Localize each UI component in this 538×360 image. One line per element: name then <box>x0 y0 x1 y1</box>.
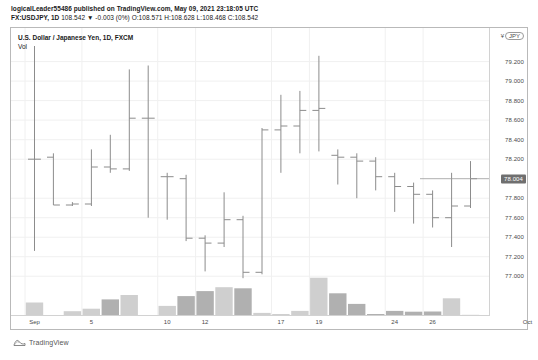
tradingview-brand: TradingView <box>13 338 69 347</box>
quote-ohlc-values: O:108.571 H:108.628 L:108.468 C:108.542 <box>132 14 259 21</box>
legend-volume-label: Vol <box>18 42 133 51</box>
attribution-quote-line: FX:USDJPY, 1D 108.542 ▼ -0.003 (0%) O:10… <box>11 13 471 22</box>
price-tick-label: 77.400 <box>505 234 524 240</box>
price-scale[interactable]: ¥JPY 79.20079.00078.80078.60078.40078.20… <box>489 28 527 316</box>
tradingview-chart-screenshot: logicalLeader55486 published on TradingV… <box>0 0 538 360</box>
time-tick-label: 26 <box>429 319 436 325</box>
chart-plot-wrapper: U.S. Dollar / Japanese Yen, 1D, FXCM Vol… <box>11 28 527 329</box>
currency-prefix: ¥ <box>501 33 504 39</box>
legend-title: U.S. Dollar / Japanese Yen, 1D, FXCM <box>18 33 133 42</box>
time-tick-label: 10 <box>164 319 171 325</box>
quote-change-value: -0.003 <box>95 14 114 21</box>
price-tick-label: 78.600 <box>505 117 524 123</box>
quote-change-percent: (0%) <box>116 14 130 21</box>
price-tick-label: 77.800 <box>505 195 524 201</box>
chart-frame: U.S. Dollar / Japanese Yen, 1D, FXCM Vol… <box>10 27 528 330</box>
time-tick-label: Sep <box>29 319 40 325</box>
attribution-publish-line: logicalLeader55486 published on TradingV… <box>11 4 471 13</box>
time-tick-label: 5 <box>90 319 93 325</box>
tradingview-logo-icon <box>13 338 26 347</box>
time-tick-label: 12 <box>202 319 209 325</box>
attribution-header: logicalLeader55486 published on TradingV… <box>11 4 471 22</box>
price-tick-label: 78.800 <box>505 98 524 104</box>
price-tick-label: 78.400 <box>505 137 524 143</box>
time-tick-label: 19 <box>316 319 323 325</box>
price-tick-label: 79.000 <box>505 78 524 84</box>
ohlc-series <box>11 28 490 316</box>
tradingview-brand-text: TradingView <box>29 339 69 346</box>
time-tick-label: 17 <box>278 319 285 325</box>
time-tick-label: Oct <box>523 319 532 325</box>
current-price-badge: 78.004 <box>501 174 526 183</box>
chart-legend: U.S. Dollar / Japanese Yen, 1D, FXCM Vol <box>18 33 133 51</box>
currency-code: JPY <box>505 32 524 40</box>
chart-pane[interactable]: U.S. Dollar / Japanese Yen, 1D, FXCM Vol <box>11 28 490 316</box>
price-tick-label: 78.200 <box>505 156 524 162</box>
price-tick-label: 77.200 <box>505 254 524 260</box>
price-tick-label: 77.000 <box>505 273 524 279</box>
time-tick-label: 24 <box>391 319 398 325</box>
price-tick-label: 77.600 <box>505 215 524 221</box>
price-tick-label: 79.200 <box>505 59 524 65</box>
quote-last-price: 108.542 <box>61 14 85 21</box>
time-scale[interactable]: Sep5101217192426Oct <box>11 315 490 329</box>
quote-symbol: FX:USDJPY, 1D <box>11 14 59 21</box>
currency-tag: ¥JPY <box>501 33 524 39</box>
quote-change-arrow-icon: ▼ <box>87 14 93 21</box>
